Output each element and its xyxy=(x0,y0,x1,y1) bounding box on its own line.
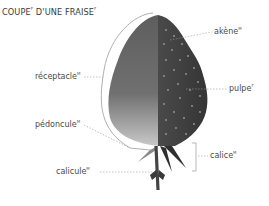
label-calice: caliceM xyxy=(210,151,237,160)
exterior-half xyxy=(158,15,207,146)
label-akene: akèneM xyxy=(214,27,242,36)
calice-bracket xyxy=(192,143,196,171)
cut-section-half xyxy=(108,15,158,146)
label-calicule: caliculeM xyxy=(56,167,90,176)
label-pulpe: pulpeF xyxy=(229,84,254,93)
label-pedoncule: pédonculeM xyxy=(35,120,80,129)
label-receptacle: réceptacleM xyxy=(35,72,80,81)
stem xyxy=(156,146,158,190)
